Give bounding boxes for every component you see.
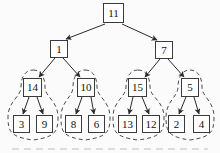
tree-node-2: 2 bbox=[168, 115, 185, 133]
tree-edges bbox=[23, 24, 199, 114]
edge-10-8 bbox=[76, 97, 82, 114]
tree-node-1: 1 bbox=[50, 40, 68, 58]
edge-5-2 bbox=[179, 97, 186, 114]
tree-node-6: 6 bbox=[88, 115, 105, 133]
edge-15-12 bbox=[142, 97, 149, 114]
edge-11-1 bbox=[66, 24, 105, 39]
tree-node-9: 9 bbox=[36, 115, 53, 133]
edge-1-14 bbox=[39, 58, 55, 77]
edge-1-10 bbox=[63, 58, 80, 77]
tree-node-5: 5 bbox=[181, 78, 199, 97]
tree-node-4: 4 bbox=[193, 115, 210, 133]
tree-node-15: 15 bbox=[128, 78, 147, 97]
tree-node-8: 8 bbox=[65, 115, 82, 133]
edge-7-15 bbox=[145, 59, 160, 77]
edge-7-5 bbox=[168, 59, 184, 77]
edge-14-3 bbox=[23, 97, 29, 114]
tree-node-12: 12 bbox=[142, 115, 160, 133]
tree-node-10: 10 bbox=[77, 78, 95, 97]
edge-10-6 bbox=[91, 97, 94, 114]
tree-node-14: 14 bbox=[23, 78, 42, 97]
edge-14-9 bbox=[37, 97, 43, 114]
tree-node-3: 3 bbox=[13, 115, 30, 133]
edge-15-13 bbox=[129, 97, 133, 114]
edge-11-7 bbox=[122, 24, 157, 40]
tree-node-13: 13 bbox=[118, 115, 137, 133]
tree-node-7: 7 bbox=[155, 41, 173, 59]
binary-tree-diagram: 11 1 7 14 10 15 5 3 9 8 6 13 12 2 4 bbox=[0, 0, 220, 153]
tree-node-11: 11 bbox=[103, 3, 124, 23]
edge-5-4 bbox=[194, 97, 199, 114]
